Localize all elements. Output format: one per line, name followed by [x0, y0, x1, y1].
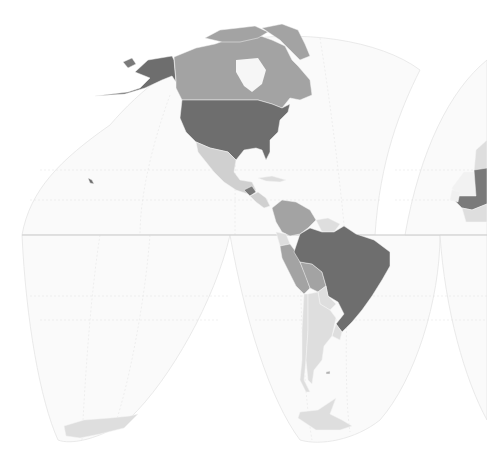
country-aleutian-isl	[123, 58, 136, 68]
world-map	[0, 0, 487, 469]
country-senegal[interactable]	[450, 190, 460, 202]
lobe-south-africa	[440, 235, 487, 420]
lobe-south-pacific	[22, 235, 230, 442]
